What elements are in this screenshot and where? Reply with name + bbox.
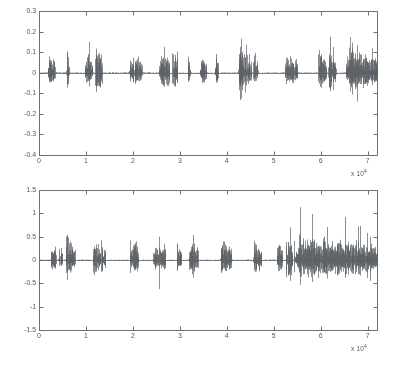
x-axis-multiplier-bottom: x 104 (351, 343, 367, 352)
plot-panel-top: 0.30.20.10-0.1-0.2-0.3-0.4 01234567 x 10… (0, 0, 401, 183)
waveform-plot-top (0, 0, 401, 183)
plot-panel-bottom: 1.510.50-0.5-1-1.5 01234567 x 104 (0, 183, 401, 365)
multiplier-exponent: 4 (364, 343, 367, 349)
waveform-plot-bottom (0, 183, 401, 365)
multiplier-base: x 10 (351, 345, 364, 352)
multiplier-exponent: 4 (364, 168, 367, 174)
x-axis-multiplier-top: x 104 (351, 168, 367, 177)
matlab-figure: 0.30.20.10-0.1-0.2-0.3-0.4 01234567 x 10… (0, 0, 401, 365)
multiplier-base: x 10 (351, 170, 364, 177)
